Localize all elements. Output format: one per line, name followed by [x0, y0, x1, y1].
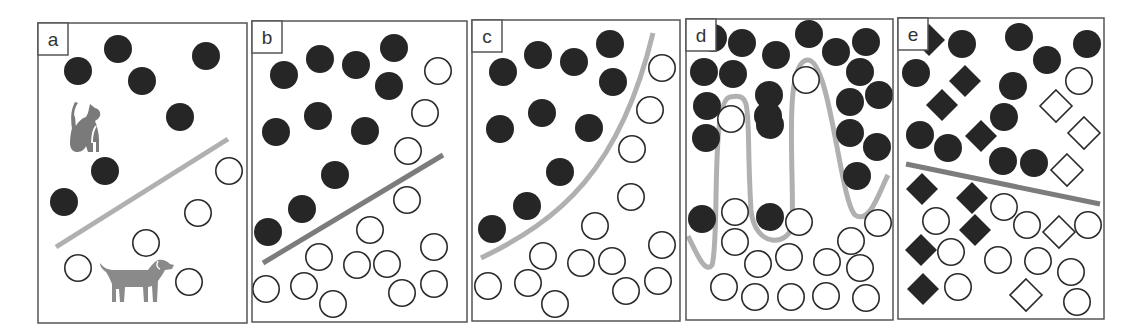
filled-circle: [822, 38, 850, 66]
empty-circle: [814, 249, 840, 275]
empty-circle: [475, 273, 501, 299]
empty-circle: [619, 136, 645, 162]
filled-circle: [688, 205, 716, 233]
empty-circle: [306, 244, 332, 270]
empty-circle: [778, 284, 804, 310]
filled-diamond: [956, 182, 988, 214]
filled-circle: [599, 68, 627, 96]
filled-circle: [863, 133, 891, 161]
filled-circle: [64, 57, 92, 85]
panel-c: c: [472, 20, 680, 321]
empty-circle: [515, 270, 541, 296]
empty-circle: [722, 229, 748, 255]
filled-circle: [719, 60, 747, 88]
empty-circle: [718, 106, 744, 132]
filled-circle: [91, 157, 119, 185]
filled-diamond: [959, 214, 991, 246]
empty-circle: [133, 230, 159, 256]
empty-circle: [991, 194, 1017, 220]
empty-circle: [421, 271, 447, 297]
empty-circle: [421, 234, 447, 260]
empty-circle: [1075, 212, 1101, 238]
empty-circle: [344, 252, 370, 278]
empty-circle: [542, 291, 568, 317]
empty-circle: [425, 58, 451, 84]
classification-diagram: a b c d e: [0, 0, 1139, 335]
panel-d: d: [686, 19, 893, 320]
empty-circle: [742, 284, 768, 310]
empty-circle: [216, 158, 242, 184]
filled-circle: [375, 72, 403, 100]
filled-circle: [513, 192, 541, 220]
filled-diamond: [949, 65, 981, 97]
filled-diamond: [926, 89, 958, 121]
filled-circle: [990, 103, 1018, 131]
filled-circle: [728, 29, 756, 57]
empty-diamond: [1068, 117, 1100, 149]
empty-circle: [745, 251, 771, 277]
empty-circle: [1064, 289, 1090, 315]
dog-icon: [100, 260, 174, 302]
empty-diamond: [1051, 154, 1083, 186]
filled-circle: [690, 58, 718, 86]
empty-circle: [320, 291, 346, 317]
empty-circle: [412, 100, 438, 126]
filled-circle: [836, 119, 864, 147]
empty-circle: [1014, 212, 1040, 238]
filled-circle: [546, 158, 574, 186]
empty-circle: [985, 247, 1011, 273]
filled-circle: [989, 147, 1017, 175]
empty-circle: [253, 276, 279, 302]
empty-circle: [389, 280, 415, 306]
filled-circle: [528, 99, 556, 127]
filled-circle: [560, 48, 588, 76]
empty-circle: [582, 213, 608, 239]
empty-circle: [291, 273, 317, 299]
empty-circle: [357, 217, 383, 243]
empty-circle: [1058, 259, 1084, 285]
filled-circle: [1020, 149, 1048, 177]
empty-circle: [793, 67, 819, 93]
empty-circle: [865, 210, 891, 236]
filled-circle: [128, 67, 156, 95]
empty-diamond: [1040, 90, 1072, 122]
filled-circle: [762, 41, 790, 69]
filled-circle: [166, 103, 194, 131]
empty-circle: [847, 255, 873, 281]
filled-circle: [304, 102, 332, 130]
empty-circle: [374, 251, 400, 277]
empty-circle: [645, 268, 671, 294]
panel-label: a: [48, 29, 59, 50]
filled-circle: [756, 111, 784, 139]
filled-diamond: [905, 234, 937, 266]
empty-circle: [786, 209, 812, 235]
empty-diamond: [1010, 279, 1042, 311]
filled-circle: [524, 41, 552, 69]
filled-circle: [852, 28, 880, 56]
filled-circle: [1005, 23, 1033, 51]
empty-circle: [568, 250, 594, 276]
empty-circle: [813, 283, 839, 309]
filled-circle: [999, 72, 1027, 100]
empty-circle: [1066, 68, 1092, 94]
filled-circle: [865, 81, 893, 109]
filled-circle: [50, 188, 78, 216]
filled-circle: [795, 20, 823, 48]
empty-circle: [722, 199, 748, 225]
filled-circle: [693, 92, 721, 120]
filled-circle: [596, 30, 624, 58]
empty-circle: [599, 248, 625, 274]
panel-label: b: [262, 27, 273, 48]
empty-circle: [1025, 248, 1051, 274]
filled-circle: [846, 58, 874, 86]
empty-circle: [838, 228, 864, 254]
filled-circle: [843, 162, 871, 190]
panel-label: e: [908, 24, 919, 45]
empty-circle: [637, 97, 663, 123]
filled-diamond: [965, 120, 997, 152]
filled-circle: [906, 121, 934, 149]
filled-circle: [104, 35, 132, 63]
filled-circle: [1033, 46, 1061, 74]
empty-circle: [853, 285, 879, 311]
filled-diamond: [906, 173, 938, 205]
